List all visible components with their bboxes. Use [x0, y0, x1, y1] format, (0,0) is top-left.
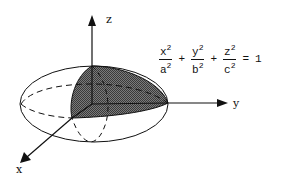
term-z: z2 c2 — [223, 43, 236, 75]
term-y: y2 b2 — [191, 43, 204, 75]
hidden-equator-front — [21, 104, 72, 118]
equals-sign: = — [242, 53, 249, 65]
equation-rhs: 1 — [255, 53, 262, 65]
term-x: x2 a2 — [159, 43, 172, 75]
x-axis-arrow-icon — [20, 152, 31, 163]
plus-sign: + — [210, 53, 217, 65]
ellipsoid-figure — [0, 0, 282, 178]
ellipsoid-equation: x2 a2 + y2 b2 + z2 c2 = 1 — [159, 43, 262, 75]
z-axis-label: z — [106, 14, 112, 25]
shaded-octant — [71, 66, 168, 118]
x-axis-label: x — [16, 164, 22, 175]
plus-sign: + — [178, 53, 185, 65]
y-axis-arrow-icon — [217, 99, 228, 107]
z-axis-arrow-icon — [88, 15, 96, 26]
y-axis-label: y — [233, 98, 239, 109]
x-axis — [27, 118, 72, 157]
